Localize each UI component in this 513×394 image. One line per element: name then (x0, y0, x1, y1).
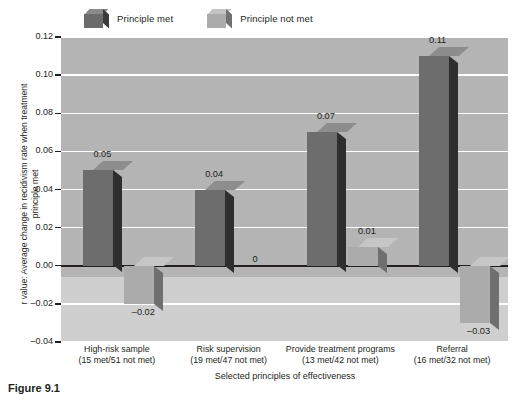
bar (348, 247, 378, 266)
bar-value-label: 0.01 (344, 226, 390, 236)
category-name: Referral (382, 344, 513, 355)
y-axis-tick-label: 0.04 (9, 184, 53, 194)
y-axis-tick-label: –0.02 (9, 298, 53, 308)
y-axis-tick-label: 0.08 (9, 107, 53, 117)
bar (83, 170, 113, 265)
bar-value-label: 0.11 (415, 35, 461, 45)
chart-legend: Principle met Principle not met (84, 7, 313, 29)
x-axis-title: Selected principles of effectiveness (61, 371, 509, 381)
bar-value-label: 0.07 (303, 111, 349, 121)
y-axis-tick-label: 0.06 (9, 145, 53, 155)
legend-item-principle-not-met: Principle not met (207, 9, 312, 28)
bar (195, 190, 225, 266)
bar-value-label: 0.05 (79, 149, 125, 159)
y-axis-tick-label: 0.12 (9, 31, 53, 41)
x-axis-category-label: Referral(16 met/32 not met) (382, 344, 513, 366)
bar (460, 266, 490, 323)
bar-value-label: 0.04 (191, 169, 237, 179)
legend-label-principle-not-met: Principle not met (240, 13, 312, 24)
category-counts: (16 met/32 not met) (382, 355, 513, 366)
x-axis-category-labels: High-risk sample(15 met/51 not met)Risk … (61, 344, 508, 370)
y-axis-tick-label: 0.02 (9, 222, 53, 232)
legend-label-principle-met: Principle met (117, 13, 173, 24)
bar (419, 56, 449, 266)
legend-item-principle-met: Principle met (84, 9, 173, 28)
figure-caption: Figure 9.1 (8, 382, 60, 394)
y-axis-tick-label: 0.10 (9, 69, 53, 79)
bar (307, 132, 337, 265)
figure-container: Principle met Principle not met r value:… (0, 0, 513, 394)
cube-dark-icon (84, 9, 110, 28)
cube-light-icon (207, 9, 233, 28)
bar-value-label: 0 (232, 254, 278, 264)
bar (124, 266, 154, 304)
y-axis-tick-label: 0.00 (9, 260, 53, 270)
